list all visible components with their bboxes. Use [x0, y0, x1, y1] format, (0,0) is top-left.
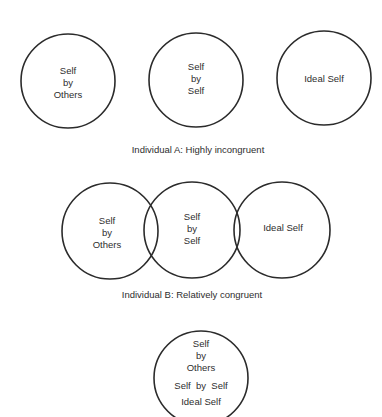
individual-b-caption: Individual B: Relatively congruent — [122, 289, 263, 300]
b-circle3-line1: Ideal Self — [263, 222, 303, 233]
a-circle1-line3: Others — [54, 89, 83, 100]
c-line2: by — [196, 350, 206, 361]
individual-a-caption: Individual A: Highly incongruent — [132, 144, 265, 155]
c-line3: Others — [187, 362, 216, 373]
b-circle2-line1: Self — [184, 211, 201, 222]
individual-c-group: Self by Others Self by Self Ideal Self — [154, 331, 248, 417]
c-line1: Self — [193, 338, 210, 349]
c-line5: Ideal Self — [181, 396, 221, 407]
individual-b-group: Self by Others Self by Self Ideal Self I… — [62, 182, 330, 300]
self-congruence-diagram: Self by Others Self by Self Ideal Self I… — [0, 0, 382, 417]
a-circle2-line2: by — [191, 73, 201, 84]
b-circle1-line1: Self — [99, 215, 116, 226]
a-circle1-line2: by — [63, 77, 73, 88]
a-circle2-line3: Self — [188, 85, 205, 96]
individual-a-group: Self by Others Self by Self Ideal Self I… — [21, 31, 371, 155]
a-circle2-line1: Self — [188, 61, 205, 72]
b-circle2-line3: Self — [184, 235, 201, 246]
a-circle1-line1: Self — [60, 65, 77, 76]
c-line4: Self by Self — [174, 380, 228, 391]
b-circle2-line2: by — [187, 223, 197, 234]
a-circle3-line1: Ideal Self — [304, 73, 344, 84]
b-circle1-line2: by — [102, 227, 112, 238]
b-circle1-line3: Others — [93, 239, 122, 250]
